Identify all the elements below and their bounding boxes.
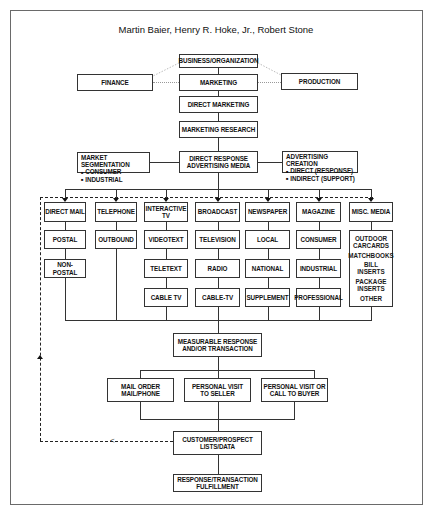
media-header-1: TELEPHONE [95, 202, 137, 222]
misc-item: PACKAGEINSERTS [355, 278, 386, 292]
node-label: INDUSTRIAL [300, 265, 337, 272]
node-label-line1: INTERACTIVE [146, 205, 187, 212]
node-label: NEWSPAPER [248, 208, 287, 215]
media-item: CONSUMER [296, 230, 341, 249]
connector [65, 189, 66, 198]
node-mail-order: MAIL ORDER MAIL/PHONE [107, 378, 174, 402]
media-item: VIDEOTEXT [144, 230, 188, 249]
connector [314, 370, 315, 378]
connector [218, 173, 219, 190]
connector [268, 307, 269, 320]
connector [166, 278, 167, 288]
node-label-line1: CUSTOMER/PROSPECT [182, 436, 253, 443]
node-label-line1: RESPONSE/TRANSACTION [177, 476, 258, 483]
connector [319, 249, 320, 259]
connector [319, 278, 320, 288]
node-personal-visit-seller: PERSONAL VISIT TO SELLER [184, 378, 251, 402]
media-header-2: INTERACTIVETV [144, 202, 188, 222]
node-label: POSTAL [53, 236, 77, 243]
node-label-line2: AND/OR TRANSACTION [182, 345, 253, 352]
connector [166, 249, 167, 259]
connector [166, 189, 167, 198]
node-label-line2: CALL TO BUYER [270, 390, 320, 397]
node-label: CABLE-TV [202, 294, 233, 301]
node-label: VIDEOTEXT [149, 236, 184, 243]
connector [65, 222, 66, 230]
feedback-arrow-left-icon: < [110, 437, 115, 445]
node-label: LOCAL [257, 236, 278, 243]
node-label: CABLE TV [151, 294, 182, 301]
node-measurable-response: MEASURABLE RESPONSE AND/OR TRANSACTION [173, 333, 262, 357]
connector [371, 189, 372, 198]
media-item: PROFESSIONAL [296, 288, 341, 307]
connector [218, 402, 219, 431]
connector [319, 189, 320, 198]
media-item: LOCAL [245, 230, 290, 249]
media-item: NON-POSTAL [44, 259, 86, 278]
connector [268, 278, 269, 288]
connector [140, 370, 141, 378]
feedback-loop-left [40, 197, 41, 441]
connector [218, 357, 219, 370]
connector [218, 320, 219, 333]
node-label-line2: FULFILLMENT [196, 483, 238, 490]
connector [218, 189, 219, 198]
connector [218, 370, 219, 378]
node-personal-visit-buyer: PERSONAL VISIT OR CALL TO BUYER [261, 378, 328, 402]
node-label: TELEPHONE [97, 208, 135, 215]
connector [218, 249, 219, 259]
connector [65, 249, 66, 259]
connector [268, 189, 269, 198]
media-header-3: BROADCAST [195, 202, 240, 222]
media-item: OUTBOUND [95, 230, 137, 249]
node-label-line1: PERSONAL VISIT [192, 383, 243, 390]
node-label-line1: MEASURABLE RESPONSE [178, 338, 257, 345]
connector [218, 278, 219, 288]
node-response-fulfillment: RESPONSE/TRANSACTION FULFILLMENT [173, 474, 262, 492]
connector [218, 222, 219, 230]
connector [319, 307, 320, 320]
misc-item: OTHER [360, 295, 382, 302]
media-item: TELETEXT [144, 259, 188, 278]
node-label: TELETEXT [150, 265, 181, 272]
connector [116, 189, 117, 198]
feedback-loop-top [40, 197, 373, 198]
media-item: RADIO [195, 259, 240, 278]
media-item: SUPPLEMENT [245, 288, 290, 307]
media-item: CABLE TV [144, 288, 188, 307]
media-item: TELEVISION [195, 230, 240, 249]
node-label-line2: LISTS/DATA [200, 443, 235, 450]
connector [218, 307, 219, 320]
media-item: CABLE-TV [195, 288, 240, 307]
node-label: PROFESSIONAL [294, 294, 342, 301]
connector [65, 278, 66, 320]
misc-item: MATCHBOOKS [348, 252, 393, 259]
feedback-arrow-up-icon [37, 355, 43, 359]
node-label: RADIO [208, 265, 228, 272]
connector [371, 222, 372, 230]
node-label-line2: TV [162, 212, 170, 219]
connector [166, 307, 167, 320]
media-item: POSTAL [44, 230, 86, 249]
response-merge-bar [140, 419, 295, 420]
connector [116, 249, 117, 320]
connector [371, 307, 372, 320]
connector [116, 222, 117, 230]
connector [268, 249, 269, 259]
node-label: OUTBOUND [98, 236, 134, 243]
node-customer-prospect-lists: CUSTOMER/PROSPECT LISTS/DATA [173, 431, 262, 455]
media-item: INDUSTRIAL [296, 259, 341, 278]
connector [166, 222, 167, 230]
node-label: NATIONAL [252, 265, 283, 272]
node-label-line1: PERSONAL VISIT OR [264, 383, 326, 390]
node-label: TELEVISION [199, 236, 235, 243]
misc-item: OUTDOORCARCARDS [353, 235, 389, 249]
node-label: DIRECT MAIL [45, 208, 84, 215]
node-label-line2: MAIL/PHONE [121, 390, 160, 397]
node-label-line2: TO SELLER [200, 390, 234, 397]
media-header-4: NEWSPAPER [245, 202, 290, 222]
connector [218, 455, 219, 474]
connector [268, 222, 269, 230]
node-label: MISC. MEDIA [352, 208, 390, 215]
feedback-loop-bottom [40, 441, 173, 442]
